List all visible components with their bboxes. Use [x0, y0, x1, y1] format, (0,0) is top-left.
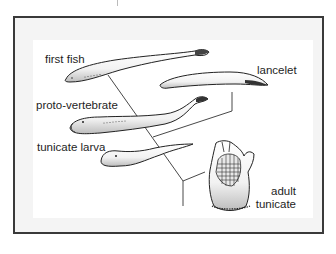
tunicate-larva-illustration — [101, 144, 193, 166]
label-proto-vertebrate: proto-vertebrate — [36, 99, 118, 112]
adult-tunicate-illustration — [209, 141, 254, 211]
evolution-diagram-art — [0, 0, 336, 254]
label-lancelet: lancelet — [257, 64, 297, 77]
label-first-fish: first fish — [45, 53, 85, 66]
lancelet-illustration — [160, 72, 268, 88]
label-adult-tunicate-line2: tunicate — [252, 198, 296, 211]
label-adult-tunicate-line1: adult — [262, 185, 296, 198]
label-tunicate-larva: tunicate larva — [37, 141, 105, 154]
